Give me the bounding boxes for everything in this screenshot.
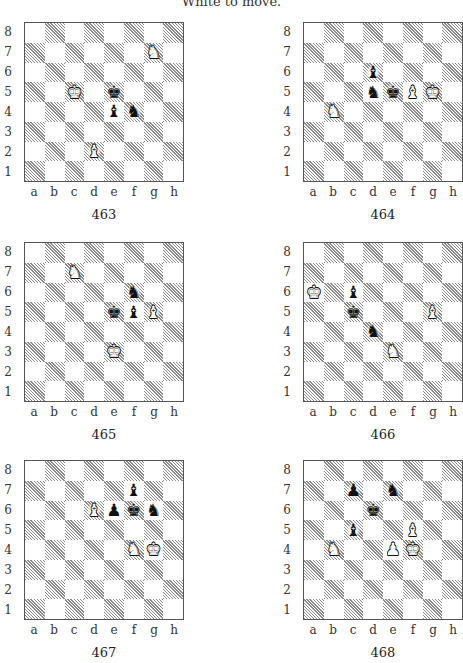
file-label: g [144,405,164,421]
square-a4 [304,102,324,122]
square-c8 [344,461,364,481]
square-f5: ♝ [403,82,423,102]
square-e7: ♞ [383,481,403,501]
square-e3 [104,122,124,142]
square-f2 [124,142,144,162]
square-e8 [104,23,124,43]
rank-label: 6 [0,282,16,302]
square-d7 [363,43,383,63]
rank-label: 3 [0,342,16,362]
square-f4: ♚ [403,540,423,560]
square-b6 [45,63,65,83]
square-c2 [65,142,85,162]
rank-label: 3 [0,122,16,142]
square-a8 [304,23,324,43]
square-a2 [25,142,45,162]
square-a1 [304,161,324,181]
square-d2 [363,580,383,600]
square-d2 [363,362,383,382]
square-b8 [324,461,344,481]
square-h1 [442,599,462,619]
black-king-icon: ♚ [106,304,121,321]
square-e5: ♚ [104,82,124,102]
square-g8 [423,243,443,263]
square-h4 [163,102,183,122]
square-f1 [403,161,423,181]
rank-label: 7 [0,42,16,62]
square-d4 [84,540,104,560]
square-h7 [163,263,183,283]
square-h2 [163,142,183,162]
rank-label: 7 [279,262,295,282]
square-c7 [65,43,85,63]
square-b5 [324,302,344,322]
square-g2 [144,580,164,600]
file-label: d [363,623,383,639]
rank-label: 8 [279,460,295,480]
square-h1 [163,599,183,619]
file-label: c [64,623,84,639]
square-a2 [25,362,45,382]
square-c1 [65,599,85,619]
square-e6: ♟ [104,501,124,521]
square-f2 [403,580,423,600]
file-label: d [363,185,383,201]
square-b8 [45,243,65,263]
square-e2 [104,362,124,382]
square-c2 [344,580,364,600]
rank-label: 8 [0,242,16,262]
square-d6 [363,283,383,303]
square-h2 [442,142,462,162]
square-c5 [65,302,85,322]
square-g8 [423,461,443,481]
square-e4 [383,102,403,122]
square-b7 [45,481,65,501]
square-g6 [423,63,443,83]
file-label: g [144,185,164,201]
square-d5 [84,302,104,322]
square-d2 [84,362,104,382]
square-e4 [383,322,403,342]
file-labels: abcdefgh [24,185,184,201]
square-c6 [65,501,85,521]
square-f8 [403,23,423,43]
file-label: b [44,185,64,201]
square-b3 [45,342,65,362]
square-f1 [124,161,144,181]
square-a6 [25,501,45,521]
square-c4 [344,540,364,560]
diagram-number: 468 [303,645,463,660]
file-label: c [343,185,363,201]
black-knight-icon: ♞ [366,323,381,340]
square-h6 [163,501,183,521]
square-e6 [383,63,403,83]
square-h6 [163,63,183,83]
square-b7 [45,263,65,283]
square-d1 [363,161,383,181]
square-f5 [403,302,423,322]
square-b6 [324,283,344,303]
file-label: h [164,623,184,639]
rank-label: 1 [279,600,295,620]
square-c4 [344,102,364,122]
square-g7: ♞ [144,43,164,63]
square-b3 [324,122,344,142]
square-h8 [163,461,183,481]
square-h1 [163,161,183,181]
white-knight-icon: ♞ [326,541,341,558]
rank-label: 2 [0,142,16,162]
rank-label: 5 [0,82,16,102]
rank-labels: 87654321 [279,22,295,182]
square-h5 [163,302,183,322]
square-b8 [45,23,65,43]
square-b8 [324,23,344,43]
file-label: e [104,405,124,421]
square-e7 [104,263,124,283]
square-g6 [144,63,164,83]
white-bishop-icon: ♝ [425,304,440,321]
square-f7 [403,43,423,63]
square-f3 [403,122,423,142]
square-e4 [104,540,124,560]
square-d3 [363,560,383,580]
square-e1 [383,599,403,619]
